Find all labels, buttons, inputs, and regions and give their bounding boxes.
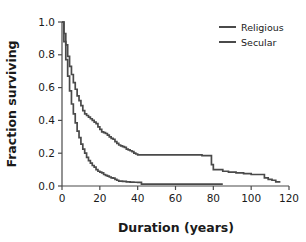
chart-canvas: 0.00.20.40.60.81.0 020406080100120 Durat… bbox=[0, 0, 306, 242]
y-axis-title: Fraction surviving bbox=[4, 40, 19, 167]
x-tick-label: 40 bbox=[131, 192, 144, 204]
legend-label-secular: Secular bbox=[241, 37, 277, 48]
legend: Religious Secular bbox=[219, 22, 284, 48]
x-tick-label: 20 bbox=[93, 192, 106, 204]
y-tick-label: 0.4 bbox=[38, 114, 55, 126]
legend-label-religious: Religious bbox=[241, 22, 284, 33]
x-tick-label: 120 bbox=[279, 192, 299, 204]
y-tick-label: 0.8 bbox=[38, 48, 55, 60]
y-tick-label: 0.6 bbox=[38, 81, 55, 93]
x-tick-label: 60 bbox=[169, 192, 182, 204]
x-tick-label: 100 bbox=[241, 192, 261, 204]
x-axis-tick-group: 020406080100120 bbox=[59, 186, 299, 204]
y-tick-label: 0.2 bbox=[38, 147, 55, 159]
x-axis-title: Duration (years) bbox=[118, 220, 234, 235]
series-line-secular bbox=[62, 22, 223, 184]
y-tick-label: 0.0 bbox=[38, 180, 55, 192]
x-tick-label: 80 bbox=[207, 192, 220, 204]
y-tick-label: 1.0 bbox=[38, 16, 55, 28]
survival-curve-figure: 0.00.20.40.60.81.0 020406080100120 Durat… bbox=[0, 0, 306, 242]
x-tick-label: 0 bbox=[59, 192, 66, 204]
y-axis-tick-group: 0.00.20.40.60.81.0 bbox=[38, 16, 62, 192]
